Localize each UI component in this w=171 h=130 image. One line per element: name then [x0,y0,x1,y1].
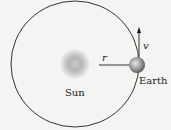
radius-label: r [102,52,107,63]
orbit-diagram [0,0,171,130]
sun-icon [60,49,90,79]
velocity-label: v [143,40,149,51]
earth-label: Earth [139,75,168,86]
earth-icon [129,57,145,73]
arrowhead-icon [137,27,141,33]
sun-label: Sun [65,87,85,98]
